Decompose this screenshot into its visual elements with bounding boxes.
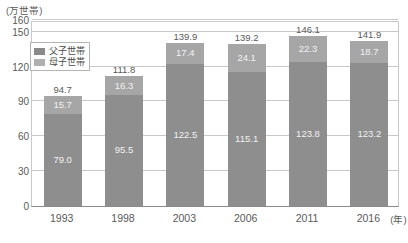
bar-segment-value: 115.1 <box>228 133 266 144</box>
bar-total-label: 141.9 <box>350 29 388 40</box>
bar-group[interactable]: 123.822.3146.1 <box>289 36 327 206</box>
x-tick-label: 1998 <box>93 212 153 224</box>
bar-segment-father-child[interactable]: 24.1 <box>228 44 266 72</box>
y-tick-label: 30 <box>0 166 29 177</box>
bar-segment-mother-child[interactable]: 123.2 <box>350 63 388 206</box>
bar-segment-mother-child[interactable]: 95.5 <box>105 95 143 206</box>
y-tick-label: 90 <box>0 96 29 107</box>
bar-segment-value: 123.8 <box>289 128 327 139</box>
bar-segment-father-child[interactable]: 15.7 <box>44 96 82 114</box>
x-tick-label: 2006 <box>216 212 276 224</box>
bar-segment-value: 17.4 <box>166 47 204 58</box>
y-tick-label: 60 <box>0 131 29 142</box>
x-tick-label: 2016 <box>338 212 398 224</box>
bar-segment-value: 122.5 <box>166 129 204 140</box>
y-tick-label: 120 <box>0 62 29 73</box>
bar-segment-value: 79.0 <box>44 154 82 165</box>
legend-item-label: 父子世帯 <box>49 47 85 56</box>
bar-segment-value: 16.3 <box>105 80 143 91</box>
bar-segment-father-child[interactable]: 18.7 <box>350 41 388 63</box>
legend-item[interactable]: 母子世帯 <box>34 57 85 67</box>
bar-group[interactable]: 123.218.7141.9 <box>350 41 388 206</box>
bar-group[interactable]: 115.124.1139.2 <box>228 44 266 206</box>
legend-swatch-icon <box>34 59 45 66</box>
y-tick-label: 160 <box>0 15 29 26</box>
bar-total-label: 139.9 <box>166 31 204 42</box>
bar-total-label: 139.2 <box>228 32 266 43</box>
bar-segment-value: 22.3 <box>289 43 327 54</box>
x-tick-label: 2011 <box>277 212 337 224</box>
legend-item[interactable]: 父子世帯 <box>34 46 85 56</box>
bar-group[interactable]: 79.015.794.7 <box>44 96 82 206</box>
legend: 父子世帯母子世帯 <box>30 42 90 71</box>
bar-segment-mother-child[interactable]: 123.8 <box>289 62 327 206</box>
bar-segment-mother-child[interactable]: 115.1 <box>228 72 266 206</box>
bar-segment-father-child[interactable]: 17.4 <box>166 43 204 63</box>
x-tick-label: 2003 <box>154 212 214 224</box>
gridline <box>32 19 398 20</box>
bar-group[interactable]: 122.517.4139.9 <box>166 43 204 206</box>
x-axis-unit-label: (年) <box>390 212 406 226</box>
bar-segment-value: 18.7 <box>350 46 388 57</box>
bar-segment-father-child[interactable]: 22.3 <box>289 36 327 62</box>
bar-total-label: 94.7 <box>44 84 82 95</box>
bar-segment-value: 95.5 <box>105 144 143 155</box>
bar-segment-mother-child[interactable]: 79.0 <box>44 114 82 206</box>
bar-total-label: 111.8 <box>105 64 143 75</box>
bar-total-label: 146.1 <box>289 24 327 35</box>
legend-item-label: 母子世帯 <box>49 58 85 67</box>
stacked-bar-chart: (万世帯) 0306090120150160 79.015.794.795.51… <box>0 0 408 243</box>
bar-segment-value: 24.1 <box>228 52 266 63</box>
y-tick-label: 150 <box>0 27 29 38</box>
bar-segment-father-child[interactable]: 16.3 <box>105 76 143 95</box>
x-tick-label: 1993 <box>32 212 92 224</box>
y-tick-label: 0 <box>0 201 29 212</box>
bar-segment-mother-child[interactable]: 122.5 <box>166 64 204 206</box>
bar-group[interactable]: 95.516.3111.8 <box>105 76 143 206</box>
bar-segment-value: 123.2 <box>350 128 388 139</box>
bar-segment-value: 15.7 <box>44 99 82 110</box>
legend-swatch-icon <box>34 48 45 55</box>
